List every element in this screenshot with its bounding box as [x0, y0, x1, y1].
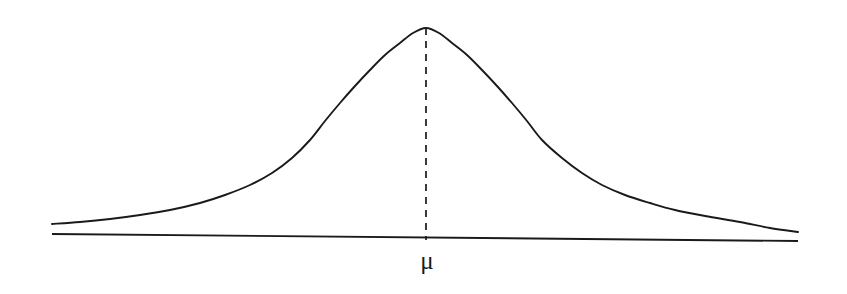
mean-symbol-label: μ	[420, 248, 433, 273]
normal-curve	[52, 28, 798, 232]
baseline-axis	[52, 234, 798, 241]
normal-distribution-figure: μ	[0, 0, 847, 294]
